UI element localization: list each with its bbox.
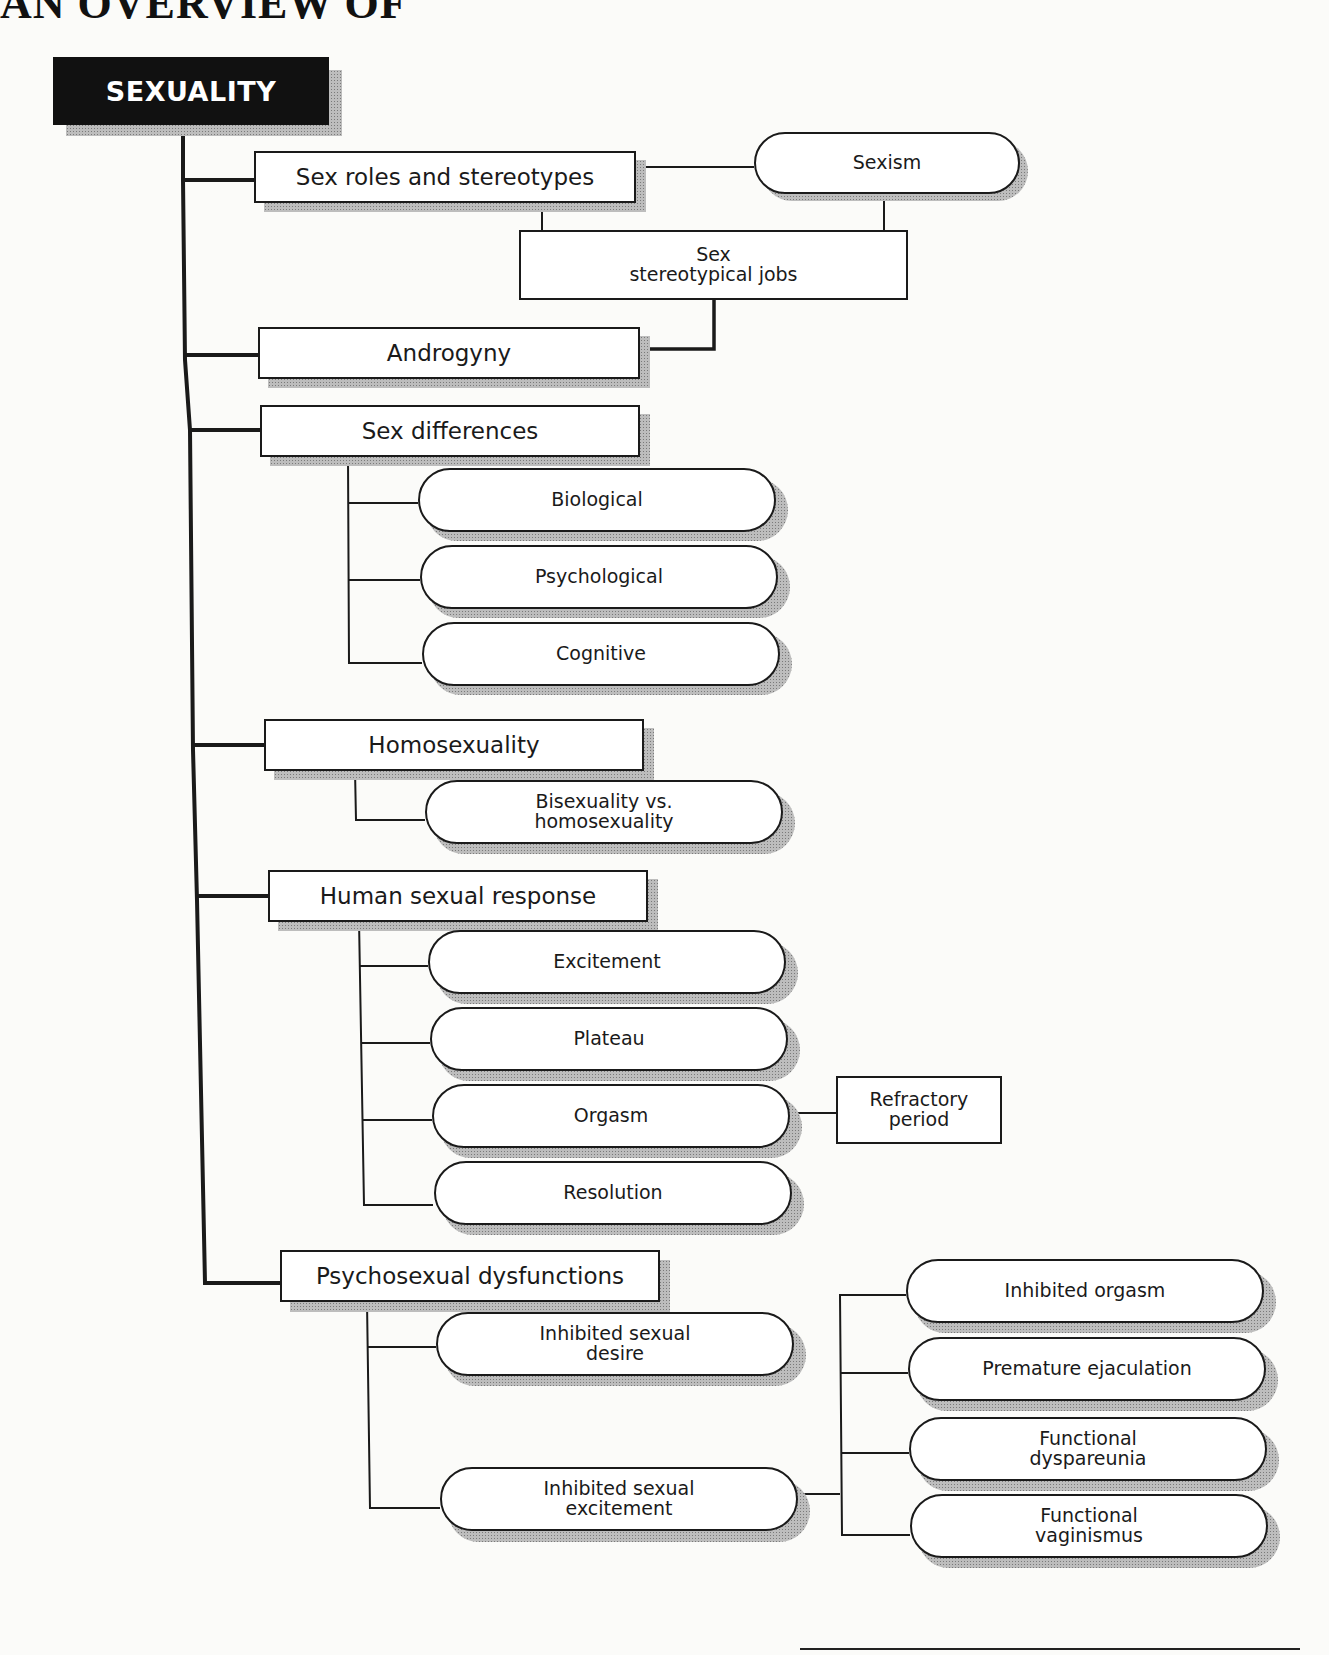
node-excitement: Excitement bbox=[428, 930, 786, 994]
node-label: Psychosexual dysfunctions bbox=[316, 1264, 624, 1288]
node-sex-differences: Sex differences bbox=[260, 405, 640, 457]
node-androgyny: Androgyny bbox=[258, 327, 640, 379]
node-label: Premature ejaculation bbox=[982, 1359, 1191, 1379]
node-label: Sex stereotypical jobs bbox=[629, 245, 797, 285]
footer-rule bbox=[800, 1648, 1300, 1650]
node-sex-stereotypical-jobs: Sex stereotypical jobs bbox=[519, 230, 908, 300]
node-label: Human sexual response bbox=[320, 884, 596, 908]
node-label: Psychological bbox=[535, 567, 663, 587]
node-label: Biological bbox=[551, 490, 643, 510]
diagram-title: SEXUALITY bbox=[53, 57, 329, 125]
node-cognitive: Cognitive bbox=[422, 622, 780, 686]
node-sexism: Sexism bbox=[754, 132, 1020, 194]
node-label: Sex differences bbox=[362, 419, 539, 443]
node-label: Inhibited sexual excitement bbox=[543, 1479, 694, 1519]
node-bisexuality-vs-homosexuality: Bisexuality vs. homosexuality bbox=[425, 780, 783, 844]
node-functional-dyspareunia: Functional dyspareunia bbox=[909, 1417, 1267, 1481]
node-label: Plateau bbox=[573, 1029, 644, 1049]
node-label: Inhibited orgasm bbox=[1005, 1281, 1166, 1301]
node-label: Refractory period bbox=[870, 1090, 969, 1130]
node-refractory-period: Refractory period bbox=[836, 1076, 1002, 1144]
node-label: Excitement bbox=[553, 952, 660, 972]
node-label: Sex roles and stereotypes bbox=[296, 165, 594, 189]
node-inhibited-sexual-desire: Inhibited sexual desire bbox=[436, 1312, 794, 1376]
node-human-sexual-response: Human sexual response bbox=[268, 870, 648, 922]
node-label: Orgasm bbox=[574, 1106, 649, 1126]
node-label: Homosexuality bbox=[368, 733, 539, 757]
node-psychological: Psychological bbox=[420, 545, 778, 609]
node-inhibited-sexual-excitement: Inhibited sexual excitement bbox=[440, 1467, 798, 1531]
node-psychosexual-dysfunctions: Psychosexual dysfunctions bbox=[280, 1250, 660, 1302]
node-resolution: Resolution bbox=[434, 1161, 792, 1225]
node-biological: Biological bbox=[418, 468, 776, 532]
node-label: Sexism bbox=[853, 153, 921, 173]
node-homosexuality: Homosexuality bbox=[264, 719, 644, 771]
node-label: Resolution bbox=[563, 1183, 662, 1203]
node-label: Functional vaginismus bbox=[1035, 1506, 1143, 1546]
node-inhibited-orgasm: Inhibited orgasm bbox=[906, 1259, 1264, 1323]
diagram-title-text: SEXUALITY bbox=[106, 76, 276, 107]
node-premature-ejaculation: Premature ejaculation bbox=[908, 1337, 1266, 1401]
node-sex-roles-and-stereotypes: Sex roles and stereotypes bbox=[254, 151, 636, 203]
node-plateau: Plateau bbox=[430, 1007, 788, 1071]
node-label: Functional dyspareunia bbox=[1030, 1429, 1147, 1469]
node-label: Cognitive bbox=[556, 644, 646, 664]
node-label: Androgyny bbox=[387, 341, 511, 365]
node-label: Bisexuality vs. homosexuality bbox=[534, 792, 673, 832]
node-label: Inhibited sexual desire bbox=[539, 1324, 690, 1364]
node-orgasm: Orgasm bbox=[432, 1084, 790, 1148]
node-functional-vaginismus: Functional vaginismus bbox=[910, 1494, 1268, 1558]
